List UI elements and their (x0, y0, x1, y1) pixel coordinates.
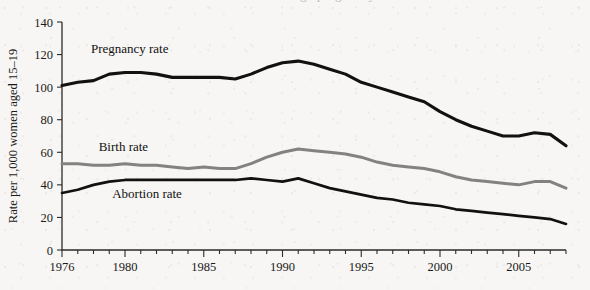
y-axis-title: Rate per 1,000 women aged 15–19 (6, 49, 20, 223)
y-axis-tick-label: 0 (47, 244, 53, 258)
series-label-abortion-rate: Abortion rate (112, 186, 182, 201)
y-axis-tick-label: 40 (41, 178, 54, 192)
y-axis-tick-label: 80 (41, 113, 54, 127)
y-axis-tick-label: 20 (41, 211, 54, 225)
series-line-pregnancy-rate (62, 61, 566, 146)
x-axis-tick-label: 1980 (113, 260, 138, 274)
line-chart: 0204060801001201401976198019851990199520… (0, 0, 590, 290)
y-axis-tick-label: 60 (41, 146, 54, 160)
x-axis-tick-label: 2005 (506, 260, 531, 274)
y-axis-tick-label: 140 (34, 16, 53, 30)
y-axis-tick-label: 120 (34, 48, 53, 62)
series-label-pregnancy-rate: Pregnancy rate (91, 41, 169, 56)
y-axis-tick-label: 100 (34, 81, 53, 95)
x-axis-tick-label: 1985 (191, 260, 216, 274)
x-axis-tick-label: 1990 (270, 260, 295, 274)
chart-root: teenage pregnancy 0204060801001201401976… (0, 0, 590, 290)
x-axis-tick-label: 1976 (50, 260, 75, 274)
x-axis-tick-label: 2000 (428, 260, 453, 274)
chart-axes (62, 22, 566, 250)
series-label-birth-rate: Birth rate (99, 139, 149, 154)
x-axis-tick-label: 1995 (349, 260, 374, 274)
